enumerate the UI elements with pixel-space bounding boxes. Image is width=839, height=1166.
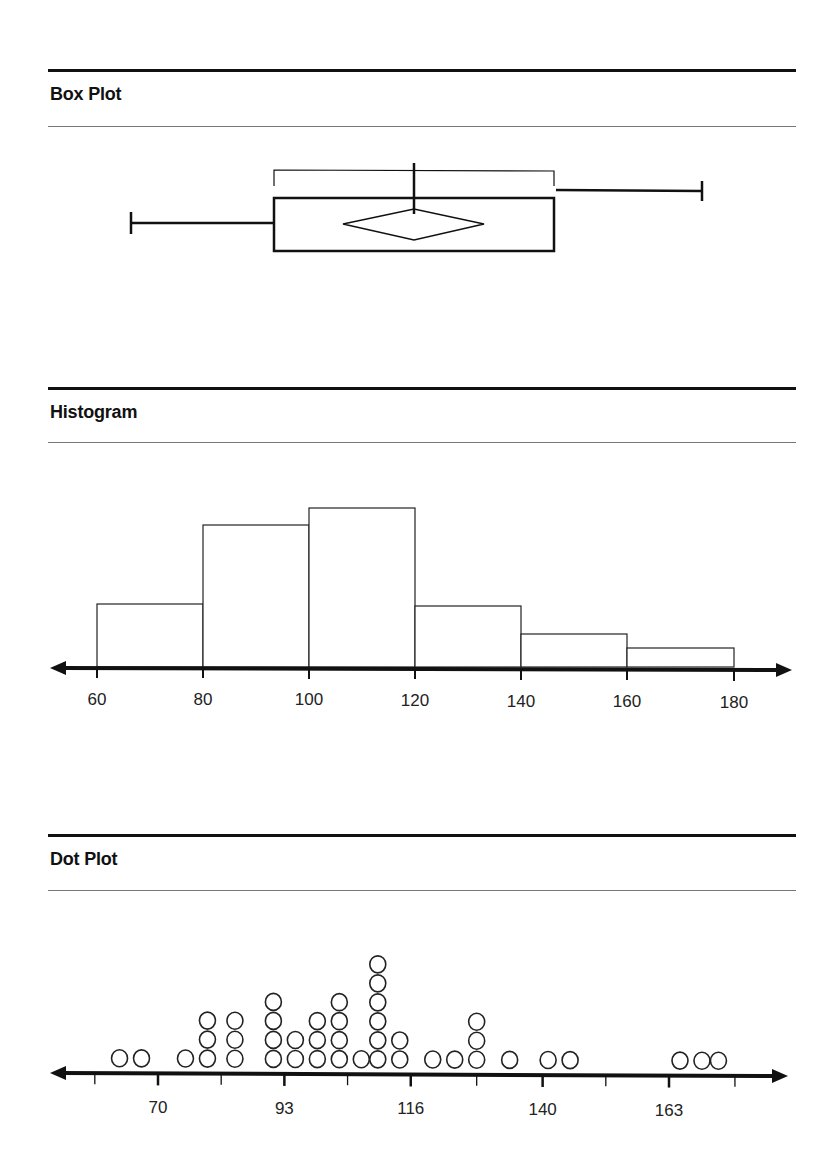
x-tick-label: 100	[295, 690, 323, 709]
dot	[370, 1032, 386, 1049]
dot	[392, 1051, 408, 1068]
dot	[469, 1051, 485, 1068]
dot	[353, 1051, 369, 1068]
dot	[177, 1050, 193, 1067]
dot	[469, 1032, 485, 1049]
dot	[331, 1013, 347, 1030]
dot	[309, 1051, 325, 1068]
histogram-bar	[415, 606, 521, 667]
right-whisker	[556, 190, 702, 191]
dot	[199, 1050, 215, 1067]
dot	[370, 975, 386, 992]
box-plot-section: Box Plot	[48, 69, 796, 299]
x-tick-label: 70	[149, 1098, 168, 1117]
dot	[309, 1032, 325, 1049]
dot	[265, 993, 281, 1010]
dot	[134, 1050, 150, 1067]
x-tick-label: 93	[275, 1099, 294, 1118]
axis-arrow-left	[50, 1066, 66, 1080]
dot	[265, 1031, 281, 1048]
x-axis	[60, 668, 780, 670]
dot	[502, 1051, 518, 1068]
dot	[265, 1012, 281, 1029]
dot	[227, 1050, 243, 1067]
dot	[331, 1032, 347, 1049]
dot	[469, 1013, 485, 1030]
dot	[710, 1052, 726, 1069]
histogram-section: Histogram	[48, 387, 796, 717]
dot-plot-chart: 7093116140163	[48, 834, 796, 1154]
histogram-bar	[521, 634, 627, 667]
histogram-chart: 60 80 100 120 140 160 180	[48, 387, 796, 717]
dot	[370, 1013, 386, 1030]
x-tick-label: 180	[720, 693, 748, 712]
x-axis	[60, 1073, 775, 1076]
x-tick-label: 160	[613, 692, 641, 711]
dot	[309, 1013, 325, 1030]
dot	[540, 1052, 556, 1069]
dot	[287, 1050, 303, 1067]
x-tick-label: 116	[397, 1099, 424, 1118]
dot	[112, 1050, 128, 1067]
dot	[199, 1031, 215, 1048]
histogram-bar	[627, 648, 734, 667]
dot	[331, 1051, 347, 1068]
box-plot-chart	[48, 69, 796, 299]
histogram-bar	[309, 508, 415, 667]
dot	[227, 1012, 243, 1029]
dot	[265, 1050, 281, 1067]
dot	[227, 1031, 243, 1048]
dot	[370, 1051, 386, 1068]
dot	[562, 1052, 578, 1069]
histogram-bar	[97, 604, 203, 667]
dot	[370, 956, 386, 973]
dot-plot-section: Dot Plot 7093116140163	[48, 834, 796, 1154]
axis-arrow-right	[776, 663, 792, 677]
x-tick-label: 80	[194, 690, 213, 709]
histogram-bar	[203, 525, 309, 667]
dot	[672, 1052, 688, 1069]
x-tick-label: 163	[655, 1101, 683, 1120]
x-tick-label: 140	[528, 1100, 556, 1119]
dot	[199, 1012, 215, 1029]
x-tick-label: 60	[88, 690, 107, 709]
x-tick-label: 140	[507, 692, 535, 711]
dot	[287, 1031, 303, 1048]
dot	[392, 1032, 408, 1049]
dot	[370, 994, 386, 1011]
axis-arrow-left	[50, 661, 66, 675]
dot	[331, 994, 347, 1011]
dot	[694, 1052, 710, 1069]
dot	[447, 1051, 463, 1068]
dot	[425, 1051, 441, 1068]
x-tick-label: 120	[401, 691, 429, 710]
axis-arrow-right	[772, 1069, 788, 1083]
